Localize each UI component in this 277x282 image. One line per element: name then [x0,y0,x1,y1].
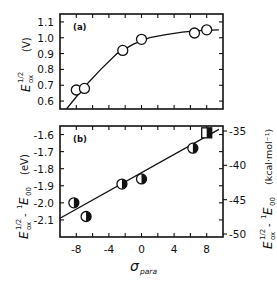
ylabel-a-sub: ox [27,75,35,83]
panel-b: -1.6-1.7-1.8-1.9-2.0-2.1(b)-8-4048-35-40… [34,125,247,255]
xlabel: σ para [130,258,157,276]
ylabel-a: E 1/2 ox (V) [17,37,35,92]
y-tick-label: -1.8 [34,163,55,175]
figure: 0.60.70.80.91.01.1(a) -1.6-1.7-1.8-1.9-2… [0,0,277,282]
ylabel-b: E 1/2 ox - 1 E 00 (eV) [15,154,33,239]
y-tick-label: -1.9 [34,180,55,192]
svg-text:-: - [263,223,274,227]
y-tick-label: 1.0 [37,32,54,44]
panel-a: 0.60.70.80.91.01.1(a) [37,14,223,109]
x-tick-label: 0 [138,243,145,255]
y-tick-label: 0.8 [37,63,54,75]
x-tick-label: 4 [171,243,178,255]
x-tick-label: -4 [104,243,115,255]
y2-tick-label: -35 [229,125,246,137]
svg-text:00: 00 [269,197,277,206]
svg-text:E: E [17,197,31,205]
ylabel-a-unit: (V) [21,37,32,52]
svg-text:ox: ox [269,232,277,240]
xlabel-main: σ [130,258,140,274]
data-point-open-circle [118,45,128,55]
ylabel-a-main: E [19,84,33,92]
y-tick-label: -1.6 [34,129,55,141]
svg-text:E: E [261,207,275,215]
data-point-open-circle [137,34,147,44]
y2-tick-label: -50 [229,228,246,240]
panel-label: (b) [73,134,87,144]
svg-text:-: - [19,213,30,217]
data-point-open-circle [189,28,199,38]
y-tick-label: -2.1 [34,214,55,226]
xlabel-sub: para [139,267,157,276]
svg-text:1/2: 1/2 [259,229,267,240]
ylabel-b-right-unit: (kcal·mol⁻¹) [263,129,274,185]
x-tick-label: 8 [203,243,210,255]
y-tick-label: 0.9 [37,48,54,60]
svg-text:E: E [17,231,31,239]
y-tick-label: 1.1 [37,16,54,28]
y-tick-label: -1.7 [34,146,55,158]
y2-tick-label: -45 [229,194,246,206]
svg-text:00: 00 [25,187,33,196]
svg-text:ox: ox [25,222,33,230]
svg-text:1/2: 1/2 [15,219,23,230]
half-fill [207,128,212,138]
ylabel-b-right: E 1/2 ox - 1 E 00 (kcal·mol⁻¹) [259,129,277,249]
ylabel-b-unit: (eV) [19,154,30,175]
x-tick-label: -8 [71,243,81,255]
panel-label: (a) [73,22,87,32]
y-tick-label: 0.6 [37,95,54,107]
ylabel-a-sup: 1/2 [17,72,25,83]
axis-labels: E 1/2 ox (V) E 1/2 ox - 1 E 00 (eV) E 1/… [15,37,277,276]
data-point-open-circle [79,83,89,93]
y-tick-label: -2.0 [34,197,55,209]
data-point-open-circle [202,25,212,35]
y-tick-label: 0.7 [37,79,54,91]
y2-tick-label: -40 [229,159,246,171]
svg-text:E: E [261,241,275,249]
